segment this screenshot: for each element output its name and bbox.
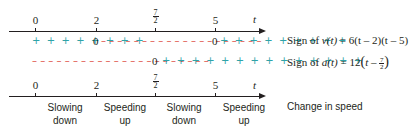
top-tick-7-2 — [155, 28, 156, 32]
bottom-tick-0 — [35, 93, 36, 97]
interval-line2: down — [166, 114, 201, 127]
acceleration-label-expr: = 12 — [338, 56, 361, 68]
bottom-tick-5 — [215, 93, 216, 97]
bottom-tick-label-0: 0 — [33, 80, 39, 91]
bottom-tick-2 — [96, 93, 97, 97]
interval-5-inf: Speeding up — [223, 101, 265, 127]
interval-2-7-2: Speeding up — [104, 101, 146, 127]
frac-den: 2 — [380, 63, 384, 71]
top-axis-arrow-icon — [259, 28, 266, 34]
interval-line2: up — [223, 114, 265, 127]
frac-den: 2 — [154, 16, 158, 25]
top-tick-label-5: 5 — [213, 15, 219, 26]
acceleration-label-prefix: Sign of — [287, 56, 322, 68]
top-tick-2 — [96, 28, 97, 32]
bottom-axis-line — [9, 96, 261, 97]
top-axis-line — [9, 31, 261, 32]
top-tick-label-7-2: 7 2 — [153, 9, 159, 24]
velocity-label-expr: = 6(t – 2)(t – 5) — [337, 34, 408, 46]
top-axis-variable: t — [253, 13, 256, 25]
velocity-sign-label: Sign of v(t) = 6(t – 2)(t – 5) — [287, 35, 408, 46]
interval-0-2: Slowing down — [47, 101, 82, 127]
top-tick-0 — [35, 28, 36, 32]
velocity-label-func: v(t) — [322, 34, 337, 46]
change-in-speed-label: Change in speed — [287, 101, 363, 112]
acceleration-label-func: a(t) — [322, 56, 338, 68]
interval-line1: Speeding — [104, 101, 146, 114]
bottom-axis-variable: t — [253, 79, 256, 91]
acceleration-zero-at-7-2: 0 — [152, 55, 158, 67]
velocity-zero-at-5: 0 — [212, 35, 218, 47]
interval-7-2-5: Slowing down — [166, 101, 201, 127]
acceleration-sign-label: Sign of a(t) = 12(t – 72) — [287, 55, 389, 70]
frac-den: 2 — [154, 81, 158, 90]
acceleration-label-paren-close: ) — [384, 54, 389, 69]
velocity-label-prefix: Sign of — [287, 34, 322, 46]
bottom-tick-label-5: 5 — [213, 80, 219, 91]
interval-line2: up — [104, 114, 146, 127]
acceleration-label-inner: t – — [365, 56, 379, 68]
interval-line1: Slowing — [166, 101, 201, 114]
top-tick-label-2: 2 — [94, 15, 100, 26]
interval-line1: Slowing — [47, 101, 82, 114]
bottom-tick-label-7-2: 7 2 — [153, 74, 159, 89]
bottom-axis-arrow-icon — [259, 93, 266, 99]
velocity-zero-at-2: 0 — [93, 35, 99, 47]
bottom-tick-7-2 — [155, 93, 156, 97]
top-tick-5 — [215, 28, 216, 32]
interval-line2: down — [47, 114, 82, 127]
interval-line1: Speeding — [223, 101, 265, 114]
bottom-tick-label-2: 2 — [94, 80, 100, 91]
top-tick-label-0: 0 — [33, 15, 39, 26]
